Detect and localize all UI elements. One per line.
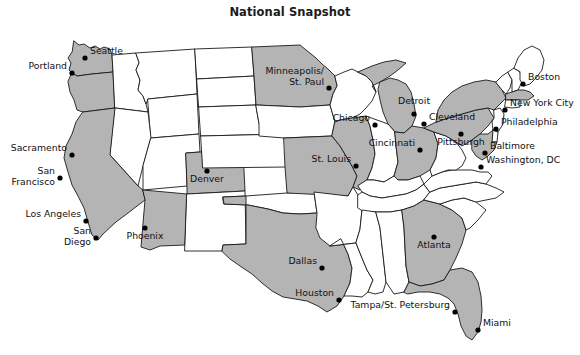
city-dot-chicago [372, 122, 377, 127]
city-dot-philadelphia [493, 126, 498, 131]
national-snapshot-map: National Snapshot [0, 0, 580, 355]
city-label-philadelphia: Philadelphia [501, 117, 558, 128]
city-label-new-york-city: New York City [510, 98, 574, 109]
city-label-seattle: Seattle [90, 46, 123, 57]
city-label-phoenix: Phoenix [115, 231, 175, 242]
city-dot-washington-dc [478, 164, 483, 169]
city-dot-tampa-st-petersburg [452, 309, 457, 314]
state-north-dakota [195, 47, 254, 79]
state-south-dakota [197, 76, 256, 107]
city-dot-seattle [82, 55, 87, 60]
city-dot-portland [69, 70, 74, 75]
city-dot-sacramento [69, 152, 74, 157]
city-dot-miami [475, 327, 480, 332]
city-dot-new-york-city [502, 107, 507, 112]
state-wyoming [148, 94, 199, 138]
city-dot-minneapolis-st-paul [326, 85, 331, 90]
state-kansas [201, 134, 287, 168]
city-label-atlanta: Atlanta [404, 240, 464, 251]
city-label-sacramento: Sacramento [11, 143, 67, 154]
city-label-los-angeles: Los Angeles [25, 209, 81, 220]
city-label-st-louis: St. Louis [312, 154, 351, 165]
city-label-cincinnati: Cincinnati [369, 138, 415, 149]
city-dot-st-louis [353, 163, 358, 168]
city-dot-detroit [411, 111, 416, 116]
city-dot-boston [520, 81, 525, 86]
city-label-tampa-st-petersburg: Tampa/St. Petersburg [351, 300, 450, 311]
city-label-boston: Boston [528, 72, 560, 83]
state-arkansas [314, 187, 362, 246]
city-dot-cleveland [421, 121, 426, 126]
city-dot-san-diego [93, 235, 98, 240]
city-label-minneapolis-st-paul: Minneapolis/ St. Paul [265, 66, 324, 87]
city-label-portland: Portland [28, 61, 67, 72]
city-label-denver: Denver [177, 174, 237, 185]
city-label-chicago: Chicago [333, 113, 370, 124]
city-dot-san-francisco [57, 175, 62, 180]
city-label-pittsburgh: Pittsburgh [431, 137, 491, 148]
city-label-san-francisco: San Francisco [12, 166, 55, 187]
city-dot-dallas [319, 265, 324, 270]
state-iowa [256, 105, 335, 138]
city-label-detroit: Detroit [384, 96, 444, 107]
state-oregon [68, 72, 115, 112]
city-dot-los-angeles [83, 218, 88, 223]
city-label-cleveland: Cleveland [429, 112, 475, 123]
city-label-houston: Houston [295, 288, 334, 299]
city-label-washington-dc: Washington, DC [486, 155, 560, 166]
us-map-svg [0, 0, 580, 355]
city-label-baltimore: Baltimore [490, 141, 535, 152]
city-label-miami: Miami [483, 318, 511, 329]
city-label-san-diego: San Diego [64, 226, 91, 247]
city-label-dallas: Dallas [288, 256, 317, 267]
city-dot-houston [336, 297, 341, 302]
city-dot-cincinnati [417, 147, 422, 152]
